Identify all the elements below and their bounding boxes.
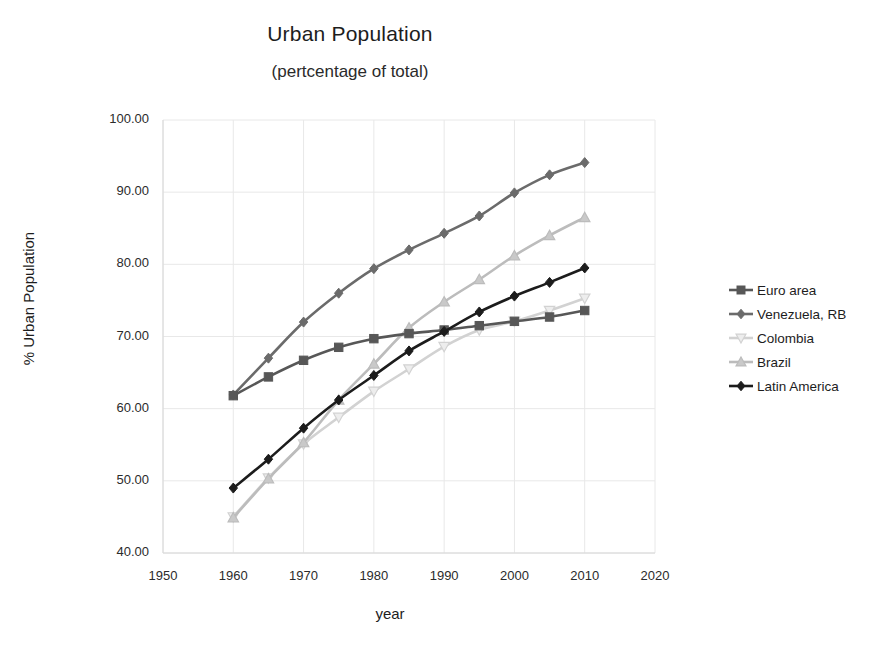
legend-item-euro-area[interactable]: Euro area bbox=[728, 278, 846, 302]
legend-item-venezuela-rb[interactable]: Venezuela, RB bbox=[728, 302, 846, 326]
data-point-diamond bbox=[440, 228, 448, 238]
series-line bbox=[233, 163, 584, 395]
data-point-diamond bbox=[405, 346, 413, 356]
y-axis-title: % Urban Population bbox=[20, 209, 37, 389]
series-venezuela-rb bbox=[229, 158, 589, 400]
data-point-diamond bbox=[510, 291, 518, 301]
x-tick-label: 2010 bbox=[550, 568, 620, 583]
y-tick-label: 80.00 bbox=[79, 255, 149, 270]
x-tick-label: 1970 bbox=[269, 568, 339, 583]
data-point-square bbox=[405, 329, 413, 337]
legend-label: Venezuela, RB bbox=[754, 307, 846, 322]
y-tick-label: 50.00 bbox=[79, 472, 149, 487]
x-axis-title: year bbox=[190, 605, 590, 622]
y-tick-label: 70.00 bbox=[79, 328, 149, 343]
legend-label: Latin America bbox=[754, 379, 839, 394]
data-point-diamond bbox=[370, 264, 378, 274]
data-point-diamond bbox=[737, 381, 745, 391]
series-latin-america bbox=[229, 263, 589, 493]
data-point-diamond bbox=[475, 211, 483, 221]
x-tick-label: 2000 bbox=[479, 568, 549, 583]
x-tick-label: 1950 bbox=[128, 568, 198, 583]
y-tick-label: 90.00 bbox=[79, 183, 149, 198]
data-point-diamond bbox=[737, 309, 745, 319]
data-point-square bbox=[510, 317, 518, 325]
chart-legend: Euro areaVenezuela, RBColombiaBrazilLati… bbox=[728, 278, 846, 398]
data-point-square bbox=[229, 391, 237, 399]
y-tick-label: 60.00 bbox=[79, 400, 149, 415]
diamond-marker-icon bbox=[728, 306, 754, 322]
data-point-square bbox=[370, 334, 378, 342]
y-tick-label: 100.00 bbox=[79, 111, 149, 126]
legend-item-latin-america[interactable]: Latin America bbox=[728, 374, 846, 398]
x-tick-label: 1960 bbox=[198, 568, 268, 583]
x-tick-label: 1980 bbox=[339, 568, 409, 583]
diamond-marker-icon bbox=[728, 378, 754, 394]
data-point-square bbox=[737, 286, 745, 294]
data-point-square bbox=[545, 313, 553, 321]
data-point-diamond bbox=[510, 188, 518, 198]
data-point-diamond bbox=[475, 307, 483, 317]
chart-title: Urban Population bbox=[0, 22, 700, 46]
legend-label: Brazil bbox=[754, 355, 791, 370]
triangle-down-marker-icon bbox=[728, 330, 754, 346]
legend-item-brazil[interactable]: Brazil bbox=[728, 350, 846, 374]
data-point-diamond bbox=[545, 170, 553, 180]
data-point-diamond bbox=[581, 158, 589, 168]
data-point-diamond bbox=[405, 245, 413, 255]
y-tick-label: 40.00 bbox=[79, 544, 149, 559]
data-point-triangle-down bbox=[439, 342, 449, 351]
data-point-diamond bbox=[545, 277, 553, 287]
chart-subtitle: (pertcentage of total) bbox=[0, 62, 700, 82]
data-point-square bbox=[581, 306, 589, 314]
data-point-triangle-up bbox=[580, 212, 590, 221]
data-point-square bbox=[475, 321, 483, 329]
data-point-square bbox=[335, 343, 343, 351]
data-point-square bbox=[299, 356, 307, 364]
x-tick-label: 1990 bbox=[409, 568, 479, 583]
data-point-triangle-up bbox=[509, 250, 519, 259]
legend-item-colombia[interactable]: Colombia bbox=[728, 326, 846, 350]
legend-label: Colombia bbox=[754, 331, 814, 346]
data-point-square bbox=[264, 373, 272, 381]
triangle-up-marker-icon bbox=[728, 354, 754, 370]
square-marker-icon bbox=[728, 282, 754, 298]
chart-container: Urban Population (pertcentage of total) … bbox=[0, 0, 880, 653]
legend-label: Euro area bbox=[754, 283, 816, 298]
series-line bbox=[233, 268, 584, 488]
x-tick-label: 2020 bbox=[620, 568, 690, 583]
